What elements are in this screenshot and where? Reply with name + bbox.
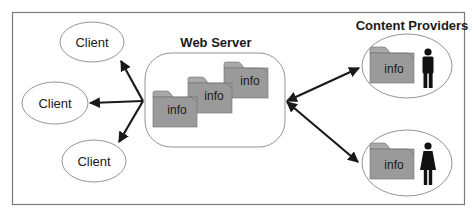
provider-node-1: info [362, 34, 452, 98]
svg-text:info: info [384, 158, 404, 172]
provider-node-2: info [362, 130, 452, 196]
svg-text:info: info [204, 89, 224, 103]
web-server-title: Web Server [180, 35, 251, 50]
client-label: Client [38, 96, 72, 111]
client-label: Client [75, 35, 109, 50]
client-node-2: Client [22, 82, 88, 124]
svg-text:info: info [240, 74, 260, 88]
svg-text:info: info [167, 103, 187, 117]
diagram-canvas: Client Client Client Web Server info inf… [0, 0, 475, 217]
content-providers-title: Content Providers [356, 18, 469, 33]
client-label: Client [77, 154, 111, 169]
svg-text:info: info [384, 62, 404, 76]
client-node-3: Client [62, 140, 126, 182]
client-node-1: Client [60, 22, 124, 62]
